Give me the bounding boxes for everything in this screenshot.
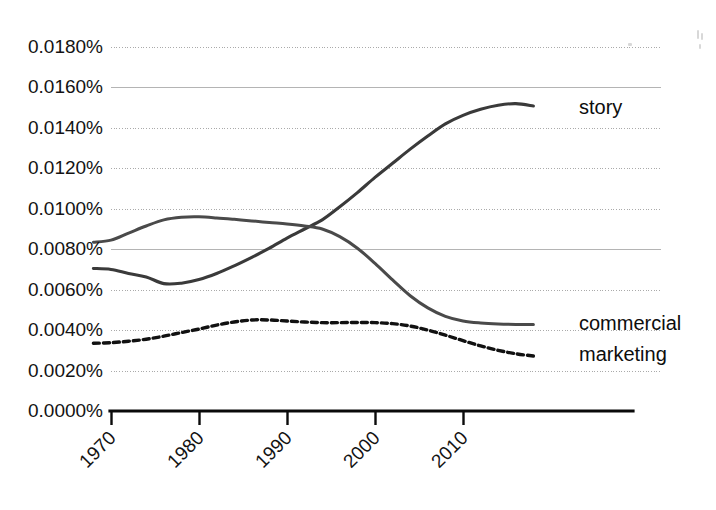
y-tick-label-0.0020: 0.0020% xyxy=(28,360,103,381)
y-tick-label-0.0100: 0.0100% xyxy=(28,198,103,219)
series-label-story: story xyxy=(579,96,622,118)
y-tick-label-0.0000: 0.0000% xyxy=(28,400,103,421)
series-label-marketing: marketing xyxy=(579,343,667,365)
x-tick-label-1970: 1970 xyxy=(75,427,120,472)
chart-plot-area: 0.0180%0.0160%0.0140%0.0120%0.0100%0.008… xyxy=(0,0,716,510)
x-tick-label-2000: 2000 xyxy=(339,427,384,472)
x-tick-label-1990: 1990 xyxy=(251,427,296,472)
y-tick-label-0.0180: 0.0180% xyxy=(28,36,103,57)
y-tick-label-0.0140: 0.0140% xyxy=(28,117,103,138)
ngram-line-chart: 0.0180%0.0160%0.0140%0.0120%0.0100%0.008… xyxy=(0,0,716,510)
series-label-commercial: commercial xyxy=(579,312,681,334)
x-tick-label-2010: 2010 xyxy=(427,427,472,472)
x-tick-label-1980: 1980 xyxy=(163,427,208,472)
series-line-marketing xyxy=(93,320,533,356)
y-tick-labels-group: 0.0180%0.0160%0.0140%0.0120%0.0100%0.008… xyxy=(28,36,103,421)
y-tick-label-0.0120: 0.0120% xyxy=(28,157,103,178)
y-tick-label-0.0160: 0.0160% xyxy=(28,76,103,97)
series-labels-group: storycommercialmarketing xyxy=(579,96,681,365)
scan-artifacts xyxy=(628,30,703,49)
y-tick-label-0.0060: 0.0060% xyxy=(28,279,103,300)
x-axis-group xyxy=(110,411,633,425)
y-tick-label-0.0040: 0.0040% xyxy=(28,319,103,340)
series-line-commercial xyxy=(93,217,533,325)
series-line-story xyxy=(93,104,533,285)
y-tick-label-0.0080: 0.0080% xyxy=(28,238,103,259)
series-curves-group xyxy=(93,104,533,356)
x-tick-labels-group: 19701980199020002010 xyxy=(75,427,472,472)
